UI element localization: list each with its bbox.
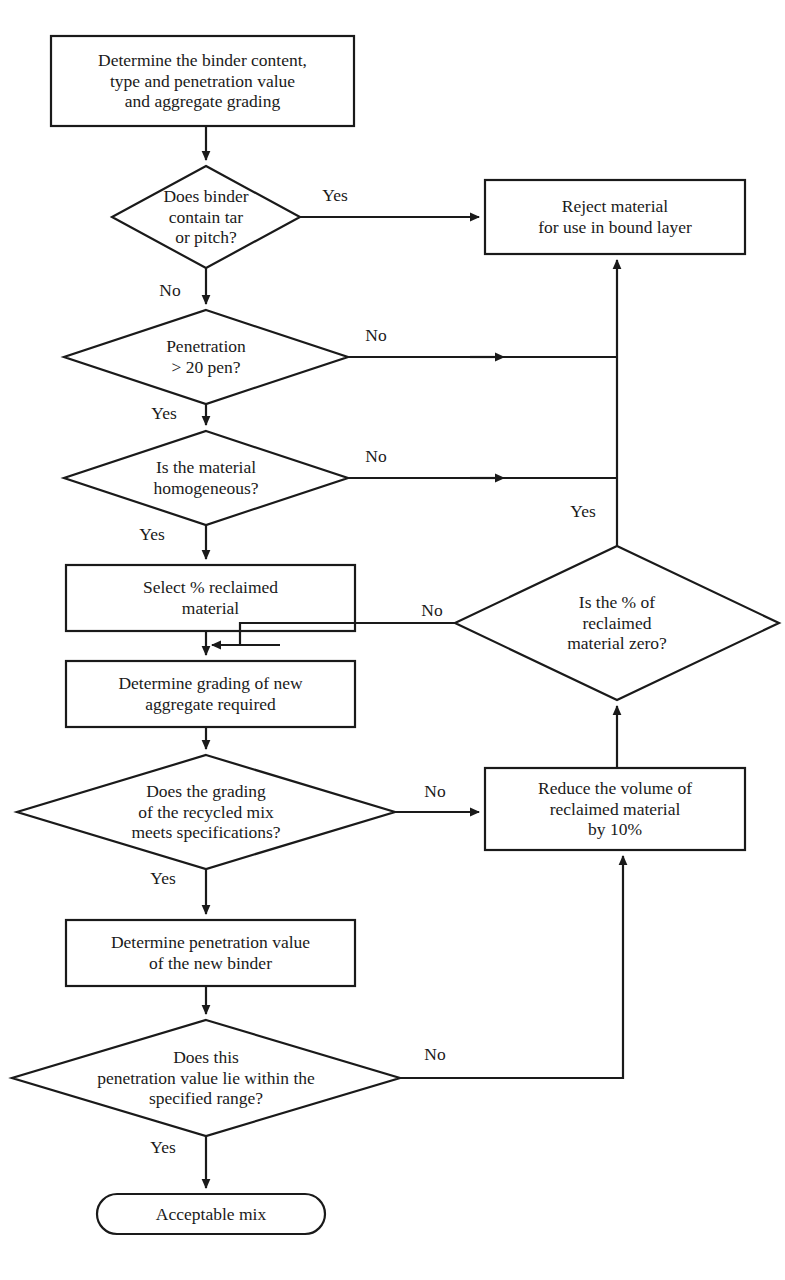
node-decision-tar bbox=[112, 166, 300, 268]
node-decision-homogeneous bbox=[64, 431, 348, 525]
edge-label-grading-no: No bbox=[417, 781, 453, 802]
flowchart-graphics bbox=[0, 0, 785, 1280]
edge-label-tar-yes: Yes bbox=[315, 185, 355, 206]
edge-label-zero-no: No bbox=[414, 600, 450, 621]
edge-label-zero-yes: Yes bbox=[561, 501, 605, 522]
node-decision-grading bbox=[17, 755, 395, 869]
edge-label-tar-no: No bbox=[152, 280, 188, 301]
node-reject-box bbox=[485, 180, 745, 254]
node-start-box bbox=[51, 36, 354, 126]
node-decision-range bbox=[12, 1020, 400, 1136]
node-grading-box bbox=[66, 661, 355, 727]
edge-label-pen20-no: No bbox=[358, 325, 394, 346]
node-decision-zero bbox=[455, 546, 779, 700]
edge-label-homogeneous-no: No bbox=[358, 446, 394, 467]
node-end-terminal bbox=[97, 1194, 325, 1234]
edge-label-range-no: No bbox=[417, 1044, 453, 1065]
node-penvalue-box bbox=[66, 920, 355, 986]
node-decision-pen20 bbox=[64, 310, 348, 404]
edge-label-grading-yes: Yes bbox=[141, 868, 185, 889]
node-reduce-box bbox=[485, 768, 745, 850]
flowchart-canvas: Determine the binder content, type and p… bbox=[0, 0, 785, 1280]
edge-label-pen20-yes: Yes bbox=[142, 403, 186, 424]
node-select-box bbox=[66, 565, 355, 631]
edge-label-homogeneous-yes: Yes bbox=[130, 524, 174, 545]
edge-label-range-yes: Yes bbox=[141, 1137, 185, 1158]
